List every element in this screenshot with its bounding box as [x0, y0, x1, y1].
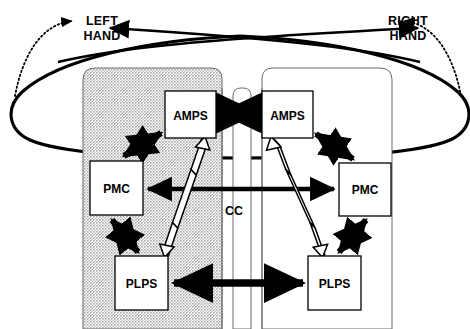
node-left-pmc-label: PMC — [103, 182, 130, 196]
node-right-amps[interactable]: AMPS — [262, 91, 313, 138]
node-left-plps-label: PLPS — [126, 277, 157, 291]
right-hand-label-line1: RIGHT — [388, 14, 428, 28]
node-right-plps-label: PLPS — [319, 277, 350, 291]
corpus-callosum-label: CC — [225, 204, 243, 218]
right-hand-label-line2: HAND — [390, 29, 427, 43]
node-right-pmc[interactable]: PMC — [339, 163, 391, 216]
arrow-left-ipsilateral-dotted — [15, 21, 72, 96]
brain-connectivity-diagram: AMPS PMC PLPS AMPS PMC PLPS CC LEFT HAND… — [0, 0, 470, 329]
node-right-pmc-label: PMC — [352, 183, 379, 197]
node-left-pmc[interactable]: PMC — [90, 161, 143, 215]
left-hand-label-line2: HAND — [84, 29, 121, 43]
node-left-amps[interactable]: AMPS — [165, 91, 216, 138]
left-hand-label-line1: LEFT — [86, 14, 118, 28]
node-right-amps-label: AMPS — [270, 109, 305, 123]
node-left-amps-label: AMPS — [173, 109, 208, 123]
node-left-plps[interactable]: PLPS — [115, 256, 168, 310]
node-right-plps[interactable]: PLPS — [308, 256, 361, 310]
figure-canvas: AMPS PMC PLPS AMPS PMC PLPS CC LEFT HAND… — [0, 0, 470, 329]
